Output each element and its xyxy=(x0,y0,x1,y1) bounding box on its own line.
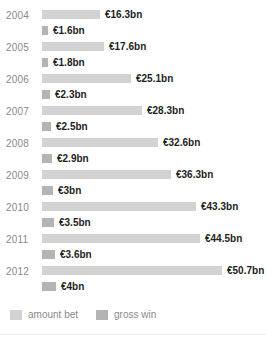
bar-row-gross-win: €2.5bn xyxy=(42,120,88,133)
year-group: 2011 €44.5bn €3.6bn xyxy=(0,232,266,264)
year-label: 2007 xyxy=(6,105,38,118)
bar-row-gross-win: €3.5bn xyxy=(42,216,91,229)
year-group: 2006 €25.1bn €2.3bn xyxy=(0,72,266,104)
bar-row-amount-bet: €43.3bn xyxy=(42,200,238,213)
bar-value-gross-win: €1.6bn xyxy=(48,24,85,37)
bar-value-gross-win: €3.6bn xyxy=(55,248,92,261)
bar-amount-bet xyxy=(42,74,131,83)
bar-value-gross-win: €2.3bn xyxy=(50,88,87,101)
bar-amount-bet xyxy=(42,170,171,179)
bar-row-amount-bet: €17.6bn xyxy=(42,40,146,53)
bar-row-amount-bet: €28.3bn xyxy=(42,104,184,117)
bar-value-amount-bet: €32.6bn xyxy=(158,136,200,149)
bar-row-gross-win: €1.6bn xyxy=(42,24,85,37)
bar-row-amount-bet: €36.3bn xyxy=(42,168,213,181)
year-group: 2007 €28.3bn €2.5bn xyxy=(0,104,266,136)
bar-amount-bet xyxy=(42,234,200,243)
bar-amount-bet xyxy=(42,42,104,51)
bottom-divider xyxy=(0,334,266,335)
legend-label-gross-win: gross win xyxy=(108,308,156,322)
bar-row-gross-win: €3bn xyxy=(42,184,81,197)
bar-row-amount-bet: €44.5bn xyxy=(42,232,242,245)
bar-value-gross-win: €4bn xyxy=(56,280,84,293)
bar-value-amount-bet: €44.5bn xyxy=(200,232,242,245)
bar-amount-bet xyxy=(42,138,158,147)
bar-value-gross-win: €2.5bn xyxy=(51,120,88,133)
bar-gross-win xyxy=(42,186,53,195)
bar-value-amount-bet: €25.1bn xyxy=(131,72,173,85)
bar-value-amount-bet: €36.3bn xyxy=(171,168,213,181)
bar-value-gross-win: €2.9bn xyxy=(52,152,89,165)
year-group: 2012 €50.7bn €4bn xyxy=(0,264,266,296)
bar-value-amount-bet: €43.3bn xyxy=(196,200,238,213)
year-label: 2010 xyxy=(6,201,38,214)
legend-item-amount-bet: amount bet xyxy=(10,308,78,322)
bar-gross-win xyxy=(42,90,50,99)
bar-row-gross-win: €1.8bn xyxy=(42,56,85,69)
year-group: 2010 €43.3bn €3.5bn xyxy=(0,200,266,232)
year-label: 2005 xyxy=(6,41,38,54)
chart-legend: amount bet gross win xyxy=(0,308,266,322)
bar-row-amount-bet: €32.6bn xyxy=(42,136,200,149)
bar-gross-win xyxy=(42,122,51,131)
bar-amount-bet xyxy=(42,10,100,19)
bar-value-gross-win: €3.5bn xyxy=(54,216,91,229)
bar-row-gross-win: €2.9bn xyxy=(42,152,89,165)
legend-label-amount-bet: amount bet xyxy=(22,308,78,322)
bar-value-gross-win: €3bn xyxy=(53,184,81,197)
year-group: 2005 €17.6bn €1.8bn xyxy=(0,40,266,72)
bar-value-amount-bet: €17.6bn xyxy=(104,40,146,53)
year-label: 2008 xyxy=(6,137,38,150)
bar-chart: 2004 €16.3bn €1.6bn 2005 €17.6bn €1.8bn … xyxy=(0,0,266,342)
year-label: 2009 xyxy=(6,169,38,182)
bar-row-gross-win: €4bn xyxy=(42,280,84,293)
bar-gross-win xyxy=(42,250,55,259)
bar-gross-win xyxy=(42,218,54,227)
chart-plot-area: 2004 €16.3bn €1.6bn 2005 €17.6bn €1.8bn … xyxy=(0,8,266,296)
bar-row-amount-bet: €16.3bn xyxy=(42,8,142,21)
bar-row-amount-bet: €50.7bn xyxy=(42,264,264,277)
bar-value-amount-bet: €50.7bn xyxy=(222,264,264,277)
bar-value-amount-bet: €16.3bn xyxy=(100,8,142,21)
bar-row-amount-bet: €25.1bn xyxy=(42,72,173,85)
year-label: 2012 xyxy=(6,265,38,278)
legend-item-gross-win: gross win xyxy=(96,308,156,322)
year-group: 2008 €32.6bn €2.9bn xyxy=(0,136,266,168)
bar-value-gross-win: €1.8bn xyxy=(48,56,85,69)
bar-amount-bet xyxy=(42,106,142,115)
bar-amount-bet xyxy=(42,202,196,211)
bar-gross-win xyxy=(42,154,52,163)
bar-amount-bet xyxy=(42,266,222,275)
year-label: 2004 xyxy=(6,9,38,22)
bar-row-gross-win: €2.3bn xyxy=(42,88,87,101)
legend-swatch-gross-win xyxy=(96,310,108,320)
year-group: 2009 €36.3bn €3bn xyxy=(0,168,266,200)
year-label: 2011 xyxy=(6,233,38,246)
bar-gross-win xyxy=(42,282,56,291)
bar-row-gross-win: €3.6bn xyxy=(42,248,92,261)
year-label: 2006 xyxy=(6,73,38,86)
year-group: 2004 €16.3bn €1.6bn xyxy=(0,8,266,40)
bar-value-amount-bet: €28.3bn xyxy=(142,104,184,117)
legend-swatch-amount-bet xyxy=(10,310,22,320)
